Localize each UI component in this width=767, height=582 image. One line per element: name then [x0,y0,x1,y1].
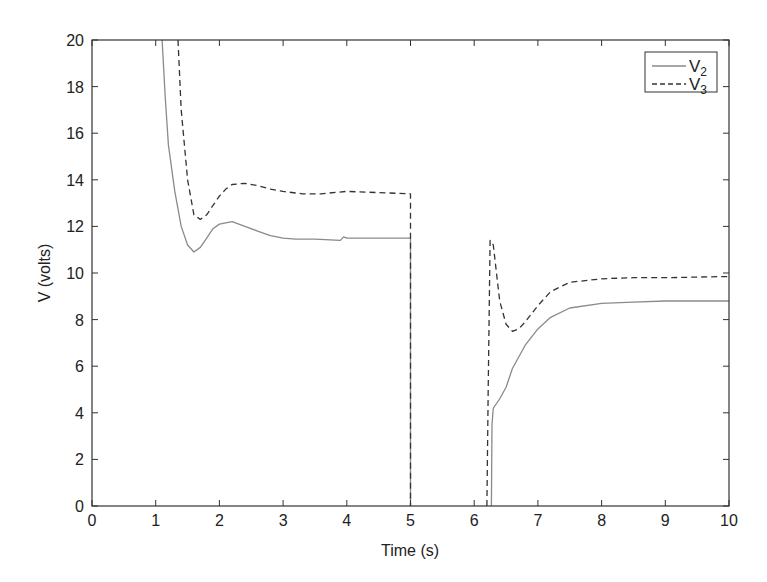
y-tick-label: 6 [75,358,84,375]
y-axis-label: V (volts) [36,244,53,303]
y-tick-label: 0 [75,498,84,515]
x-tick-label: 10 [720,512,738,529]
y-tick-label: 18 [66,79,84,96]
x-tick-label: 0 [88,512,97,529]
plot-area: 01234567891002468101214161820 [66,32,738,529]
x-tick-label: 4 [342,512,351,529]
legend: V2 V3 [645,52,717,97]
x-tick-label: 5 [406,512,415,529]
y-tick-label: 4 [75,405,84,422]
x-tick-label: 3 [279,512,288,529]
y-tick-label: 20 [66,32,84,49]
y-tick-label: 16 [66,125,84,142]
y-tick-label: 2 [75,451,84,468]
x-tick-label: 8 [597,512,606,529]
series-v2-line [162,40,729,506]
series-layer [162,40,729,506]
y-tick-label: 12 [66,218,84,235]
x-tick-label: 6 [470,512,479,529]
ticks-layer: 01234567891002468101214161820 [66,32,738,529]
y-tick-label: 8 [75,312,84,329]
x-tick-label: 7 [533,512,542,529]
x-tick-label: 9 [661,512,670,529]
x-tick-label: 1 [151,512,160,529]
x-tick-label: 2 [215,512,224,529]
voltage-time-chart: 01234567891002468101214161820 Time (s) V… [0,0,767,582]
x-axis-label: Time (s) [381,542,439,559]
y-tick-label: 14 [66,172,84,189]
y-tick-label: 10 [66,265,84,282]
series-v3-line [178,40,729,506]
